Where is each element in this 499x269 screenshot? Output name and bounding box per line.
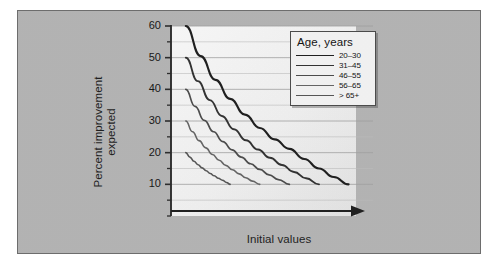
legend-item-label: 46–55: [339, 71, 361, 80]
y-axis-title-line1: Percent improvement: [92, 57, 105, 207]
legend-item: > 65+: [296, 91, 370, 100]
legend-entries: 20–3031–4546–5556–65> 65+: [296, 51, 370, 100]
legend-item-label: 20–30: [339, 51, 361, 60]
y-tick-label: 60: [137, 19, 161, 31]
y-axis-title: Percent improvement expected: [92, 57, 118, 207]
legend-line-swatch: [296, 65, 334, 66]
legend-item: 20–30: [296, 51, 370, 60]
legend-line-swatch: [296, 85, 334, 86]
legend-item-label: 31–45: [339, 61, 361, 70]
y-tick-label: 50: [137, 51, 161, 63]
legend-line-swatch: [296, 95, 334, 96]
legend-item: 31–45: [296, 61, 370, 70]
x-axis-title: Initial values: [194, 233, 364, 245]
screenshot-root: 102030405060 Percent improvement expecte…: [0, 0, 499, 269]
y-tick-label: 30: [137, 114, 161, 126]
legend-item: 46–55: [296, 71, 370, 80]
y-tick-label: 20: [137, 146, 161, 158]
y-tick-label: 40: [137, 82, 161, 94]
legend-item: 56–65: [296, 81, 370, 90]
legend-line-swatch: [296, 55, 334, 56]
y-axis-title-line2: expected: [105, 57, 118, 207]
y-tick-label: 10: [137, 177, 161, 189]
chart-canvas: [18, 11, 482, 255]
legend-title: Age, years: [297, 36, 370, 48]
x-axis-arrowhead: [351, 206, 365, 217]
chart-legend: Age, years 20–3031–4546–5556–65> 65+: [290, 31, 376, 106]
legend-item-label: > 65+: [339, 91, 359, 100]
legend-line-swatch: [296, 75, 334, 76]
figure-panel: 102030405060 Percent improvement expecte…: [17, 10, 481, 254]
legend-item-label: 56–65: [339, 81, 361, 90]
